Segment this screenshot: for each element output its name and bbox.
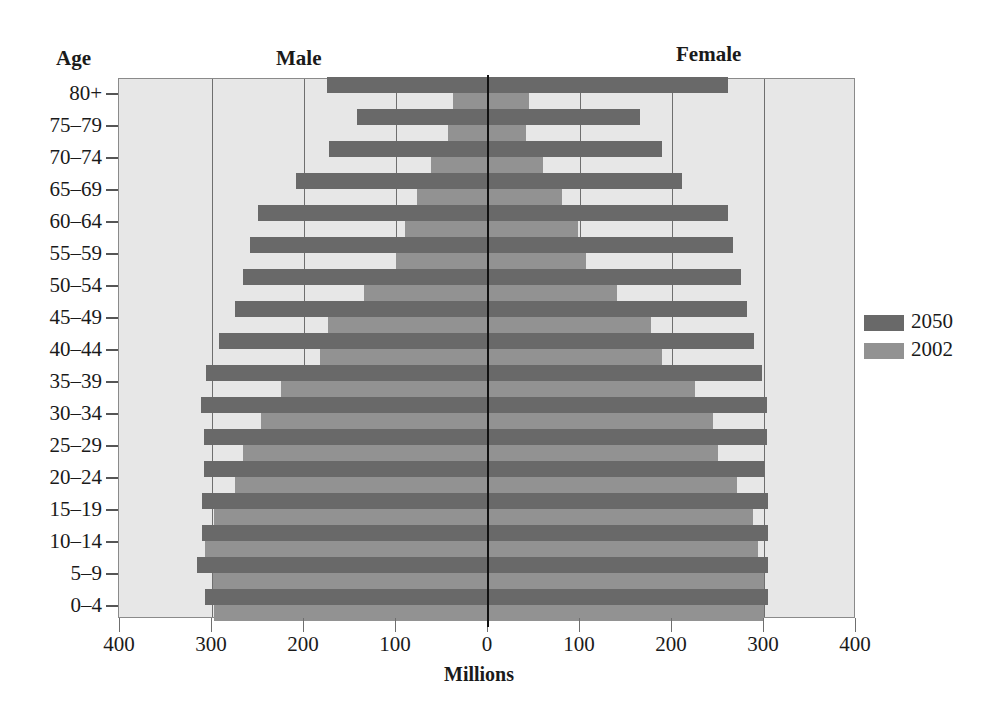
bar-female-2002 bbox=[488, 605, 764, 621]
bar-male-2050 bbox=[243, 269, 488, 285]
bar-female-2002 bbox=[488, 413, 713, 429]
bar-female-2050 bbox=[488, 461, 765, 477]
bar-male-2050 bbox=[202, 525, 488, 541]
bar-female-2002 bbox=[488, 541, 758, 557]
male-header: Male bbox=[276, 46, 321, 71]
x-tick-label: 400 bbox=[89, 632, 149, 657]
y-tick bbox=[106, 413, 118, 415]
y-tick bbox=[106, 477, 118, 479]
x-tick-label: 0 bbox=[457, 632, 517, 657]
bar-male-2050 bbox=[206, 365, 488, 381]
bar-female-2050 bbox=[488, 397, 767, 413]
bar-male-2002 bbox=[405, 221, 488, 237]
y-axis-title: Age bbox=[56, 46, 91, 71]
y-tick-label: 50–54 bbox=[12, 274, 102, 296]
legend-label-2002: 2002 bbox=[911, 337, 953, 362]
bar-male-2002 bbox=[448, 125, 488, 141]
bar-female-2002 bbox=[488, 477, 737, 493]
bar-male-2002 bbox=[214, 605, 488, 621]
bar-male-2050 bbox=[258, 205, 488, 221]
bar-male-2002 bbox=[417, 189, 488, 205]
bar-female-2050 bbox=[488, 429, 767, 445]
bar-male-2050 bbox=[250, 237, 488, 253]
y-tick bbox=[106, 317, 118, 319]
bar-male-2002 bbox=[213, 573, 488, 589]
y-tick-label: 70–74 bbox=[12, 146, 102, 168]
y-tick bbox=[106, 509, 118, 511]
y-tick-label: 30–34 bbox=[12, 402, 102, 424]
bar-female-2050 bbox=[488, 141, 662, 157]
bar-female-2050 bbox=[488, 77, 728, 93]
y-tick-label: 35–39 bbox=[12, 370, 102, 392]
y-tick bbox=[106, 93, 118, 95]
legend-swatch-2050 bbox=[864, 315, 904, 331]
bar-female-2002 bbox=[488, 157, 543, 173]
legend-label-2050: 2050 bbox=[911, 309, 953, 334]
y-tick bbox=[106, 573, 118, 575]
y-tick-label: 60–64 bbox=[12, 210, 102, 232]
y-tick-label: 15–19 bbox=[12, 498, 102, 520]
bar-female-2050 bbox=[488, 525, 768, 541]
y-tick bbox=[106, 381, 118, 383]
legend-swatch-2002 bbox=[864, 343, 904, 359]
bar-female-2002 bbox=[488, 317, 651, 333]
x-tick-label: 400 bbox=[825, 632, 885, 657]
y-tick-label: 25–29 bbox=[12, 434, 102, 456]
bar-male-2002 bbox=[261, 413, 488, 429]
y-tick bbox=[106, 189, 118, 191]
x-tick bbox=[303, 618, 304, 632]
bar-female-2050 bbox=[488, 269, 741, 285]
y-tick-label: 80+ bbox=[12, 82, 102, 104]
y-tick bbox=[106, 349, 118, 351]
x-tick bbox=[671, 618, 672, 632]
y-tick bbox=[106, 157, 118, 159]
y-tick bbox=[106, 285, 118, 287]
x-tick bbox=[395, 618, 396, 632]
bar-male-2050 bbox=[204, 429, 488, 445]
x-tick-label: 100 bbox=[365, 632, 425, 657]
bar-male-2050 bbox=[296, 173, 488, 189]
y-tick-label: 65–69 bbox=[12, 178, 102, 200]
bar-male-2050 bbox=[219, 333, 488, 349]
y-tick bbox=[106, 125, 118, 127]
bar-male-2050 bbox=[197, 557, 488, 573]
y-tick-label: 10–14 bbox=[12, 530, 102, 552]
x-axis-title: Millions bbox=[444, 663, 514, 686]
x-tick bbox=[119, 618, 120, 632]
bar-female-2002 bbox=[488, 381, 695, 397]
bar-female-2050 bbox=[488, 333, 754, 349]
y-tick-label: 5–9 bbox=[12, 562, 102, 584]
bar-male-2002 bbox=[214, 509, 488, 525]
x-tick bbox=[855, 618, 856, 632]
bar-male-2002 bbox=[364, 285, 488, 301]
y-tick-label: 45–49 bbox=[12, 306, 102, 328]
plot-area bbox=[118, 78, 855, 618]
bar-female-2002 bbox=[488, 189, 562, 205]
bar-male-2050 bbox=[357, 109, 488, 125]
bar-male-2050 bbox=[327, 77, 488, 93]
bar-male-2050 bbox=[205, 589, 488, 605]
bar-female-2050 bbox=[488, 493, 768, 509]
y-tick-label: 20–24 bbox=[12, 466, 102, 488]
bar-female-2050 bbox=[488, 365, 762, 381]
y-tick bbox=[106, 221, 118, 223]
x-tick-label: 200 bbox=[641, 632, 701, 657]
y-tick bbox=[106, 605, 118, 607]
bar-female-2050 bbox=[488, 109, 640, 125]
y-tick-label: 0–4 bbox=[12, 594, 102, 616]
bar-male-2050 bbox=[235, 301, 488, 317]
bar-female-2050 bbox=[488, 205, 728, 221]
bar-female-2050 bbox=[488, 173, 682, 189]
bar-female-2002 bbox=[488, 253, 586, 269]
y-tick bbox=[106, 445, 118, 447]
bar-male-2002 bbox=[243, 445, 488, 461]
bar-female-2050 bbox=[488, 237, 733, 253]
bar-female-2002 bbox=[488, 221, 578, 237]
x-tick-label: 100 bbox=[549, 632, 609, 657]
y-tick-label: 55–59 bbox=[12, 242, 102, 264]
female-header: Female bbox=[676, 42, 741, 67]
bar-male-2050 bbox=[204, 461, 488, 477]
x-tick-label: 300 bbox=[733, 632, 793, 657]
bar-female-2050 bbox=[488, 589, 768, 605]
bar-male-2002 bbox=[328, 317, 488, 333]
